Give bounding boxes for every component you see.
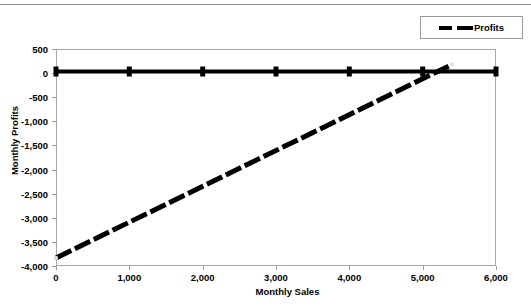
y-tick-label: -3,500 bbox=[0, 236, 48, 247]
y-tick-mark bbox=[52, 73, 57, 74]
y-tick-mark bbox=[52, 242, 57, 243]
y-tick-mark bbox=[52, 49, 57, 50]
x-tick-mark bbox=[129, 266, 130, 270]
y-tick-label: -1,000 bbox=[0, 116, 48, 127]
x-tick-label: 6,000 bbox=[484, 272, 508, 283]
x-tick-mark bbox=[203, 266, 204, 270]
y-tick-mark bbox=[52, 170, 57, 171]
x-axis-title: Monthly Sales bbox=[0, 286, 531, 297]
y-tick-mark bbox=[52, 145, 57, 146]
x-tick-mark bbox=[423, 266, 424, 270]
x-tick-label: 4,000 bbox=[337, 272, 361, 283]
y-tick-label: -4,000 bbox=[0, 261, 48, 272]
x-tick-mark bbox=[496, 266, 497, 270]
x-tick-label: 1,000 bbox=[117, 272, 141, 283]
y-tick-label: -500 bbox=[0, 92, 48, 103]
x-tick-mark bbox=[56, 266, 57, 270]
x-tick-label: 3,000 bbox=[264, 272, 288, 283]
x-tick-mark bbox=[276, 266, 277, 270]
y-tick-label: -2,000 bbox=[0, 164, 48, 175]
y-axis-tick-labels: 500 0 -500 -1,000 -1,500 -2,000 -2,500 -… bbox=[0, 0, 531, 306]
y-tick-label: 0 bbox=[0, 68, 48, 79]
x-tick-label: 5,000 bbox=[411, 272, 435, 283]
y-tick-mark bbox=[52, 97, 57, 98]
break-even-line-chart: Profits 500 0 -500 -1,000 -1,500 -2,000 … bbox=[0, 0, 531, 306]
x-tick-label: 2,000 bbox=[191, 272, 215, 283]
y-tick-label: -2,500 bbox=[0, 188, 48, 199]
x-tick-label: 0 bbox=[53, 272, 58, 283]
y-tick-mark bbox=[52, 121, 57, 122]
y-tick-label: 500 bbox=[0, 44, 48, 55]
y-tick-label: -1,500 bbox=[0, 140, 48, 151]
y-tick-mark bbox=[52, 218, 57, 219]
x-axis-title-text: Monthly Sales bbox=[256, 286, 320, 297]
y-tick-mark bbox=[52, 194, 57, 195]
y-axis-title: Monthly Profits bbox=[9, 81, 20, 201]
x-tick-mark bbox=[349, 266, 350, 270]
y-tick-label: -3,000 bbox=[0, 212, 48, 223]
